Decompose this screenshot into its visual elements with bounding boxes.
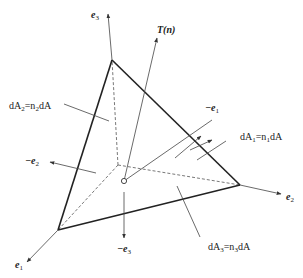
dA3-label: dA3=n3dA <box>208 241 251 254</box>
e1-axis-arrow-icon <box>27 230 58 262</box>
traction-label: T(n) <box>157 24 175 36</box>
e3-label: e3 <box>91 9 99 22</box>
neg-e2-label: −e2 <box>25 155 40 168</box>
e2-axis-arrow-icon <box>240 185 281 194</box>
tetrahedron-diagram: e3 e1 e2 T(n) −e1 −e2 −e3 dA2=n2dA dA1=n… <box>0 0 303 278</box>
n-arrow-icon <box>124 120 212 181</box>
n-arrow-head-icon <box>190 140 212 150</box>
area-leaders <box>64 104 226 237</box>
dA2-label: dA2=n2dA <box>9 100 52 113</box>
e1-label: e1 <box>15 259 23 272</box>
origin-point <box>121 178 126 183</box>
traction-arrow-icon <box>124 38 157 181</box>
neg-e3-label: −e3 <box>117 243 132 256</box>
neg-e2-arrow-icon <box>50 162 96 173</box>
e2-label: e2 <box>286 191 294 204</box>
neg-e1-label: −e1 <box>205 102 220 115</box>
tetrahedron-edges <box>58 60 240 230</box>
e3-axis-arrow-icon <box>108 14 112 60</box>
dA1-label: dA1=n1dA <box>240 131 283 144</box>
